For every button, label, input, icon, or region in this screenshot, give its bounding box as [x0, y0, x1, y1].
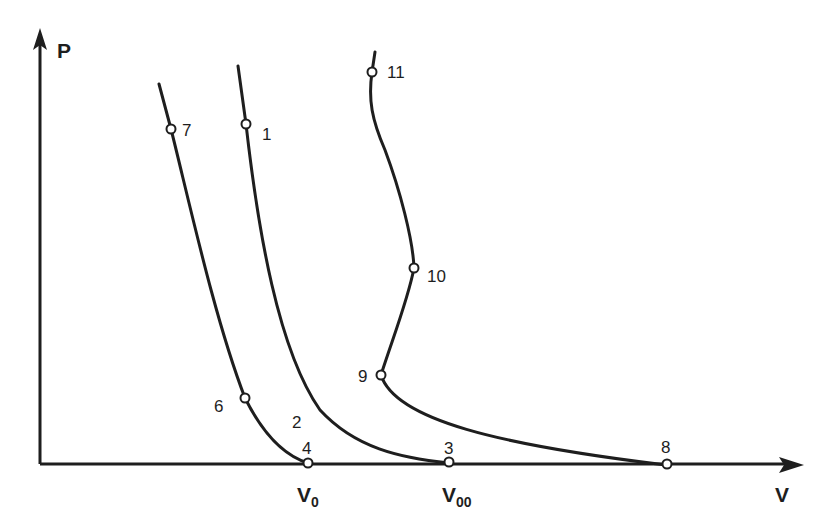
point-label-10: 10: [427, 268, 446, 285]
x-axis-label: V: [775, 484, 789, 505]
x-tick-v0-main: V: [297, 483, 311, 506]
point-label-9: 9: [358, 368, 367, 385]
point-label-2: 2: [292, 414, 301, 431]
x-tick-v00-main: V: [442, 483, 456, 506]
point-marker-1: [242, 120, 251, 129]
point-label-4: 4: [302, 440, 311, 457]
x-tick-v0: V0: [297, 484, 319, 505]
y-axis-label: P: [57, 40, 71, 61]
point-marker-6: [241, 394, 250, 403]
point-label-3: 3: [444, 440, 453, 457]
point-marker-4: [304, 459, 313, 468]
x-tick-v00-sub: 00: [456, 494, 472, 510]
point-label-8: 8: [661, 439, 670, 456]
x-tick-v00: V00: [442, 484, 472, 505]
curve-7-6-4: [159, 84, 308, 463]
point-markers: [167, 68, 672, 469]
point-label-7: 7: [182, 122, 191, 139]
point-marker-11: [368, 68, 377, 77]
point-marker-8: [663, 460, 672, 469]
pv-diagram: [0, 0, 834, 532]
point-marker-9: [377, 371, 386, 380]
curve-11-10-9-8: [371, 52, 666, 465]
point-label-6: 6: [214, 398, 223, 415]
x-tick-v0-sub: 0: [311, 494, 319, 510]
point-label-1: 1: [262, 126, 271, 143]
point-marker-3: [445, 458, 454, 467]
point-marker-10: [410, 264, 419, 273]
curves: [159, 52, 666, 465]
point-label-11: 11: [387, 64, 405, 81]
axes: [40, 42, 790, 464]
point-marker-7: [167, 125, 176, 134]
